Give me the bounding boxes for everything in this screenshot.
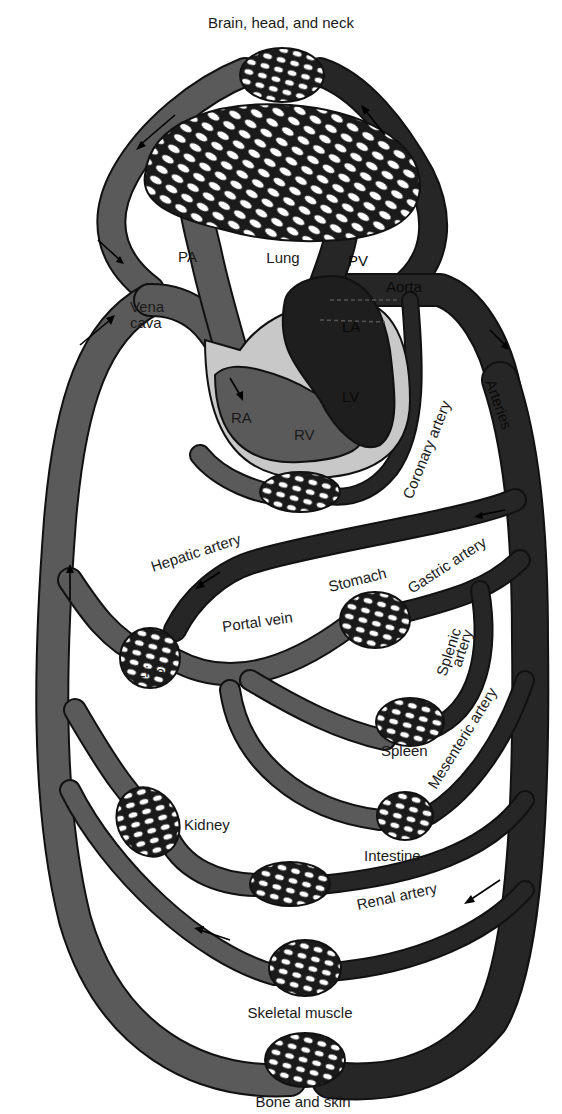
label-skeletal-muscle: Skeletal muscle — [247, 1004, 352, 1021]
label-brain-head-neck: Brain, head, and neck — [208, 14, 354, 31]
label-stomach: Stomach — [327, 564, 389, 595]
label-spleen: Spleen — [381, 742, 428, 759]
label-portal-vein: Portal vein — [221, 608, 294, 635]
coronary-capillary-bed — [260, 472, 340, 512]
stomach-capillary-bed — [340, 592, 410, 648]
label-rv: RV — [294, 426, 315, 443]
label-lv: LV — [342, 388, 359, 405]
label-la: LA — [342, 318, 360, 335]
label-vena-cava-line1: Vena — [130, 298, 165, 315]
skeletal-muscle-capillary-bed — [269, 940, 341, 996]
label-liver: Liver — [137, 663, 170, 680]
label-pv: PV — [348, 252, 368, 269]
label-aorta: Aorta — [386, 278, 423, 295]
renal-capillary-bed — [250, 862, 330, 906]
diagram-canvas: Brain, head, and neck Lung PA PV Aorta V… — [0, 0, 562, 1114]
label-kidney: Kidney — [184, 816, 230, 833]
label-ra: RA — [231, 409, 252, 426]
circulatory-diagram: Brain, head, and neck Lung PA PV Aorta V… — [0, 0, 562, 1114]
intestine-capillary-bed — [377, 792, 433, 840]
label-lung: Lung — [266, 249, 299, 266]
label-bone-and-skin: Bone and skin — [255, 1093, 350, 1110]
label-vena-cava-line2: cava — [130, 314, 162, 331]
label-intestine: Intestine — [364, 847, 421, 864]
spleen-capillary-bed — [376, 698, 444, 746]
arrow-icon — [470, 880, 500, 900]
label-pa: PA — [178, 248, 197, 265]
bone-skin-capillary-bed — [265, 1033, 345, 1087]
brain-capillary-bed — [240, 48, 324, 102]
